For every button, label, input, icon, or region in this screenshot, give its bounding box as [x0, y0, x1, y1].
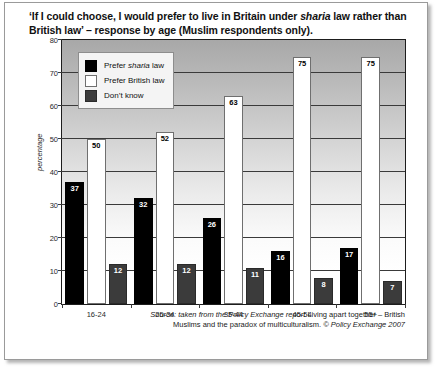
bar-group: 16758	[268, 40, 337, 304]
bar-dk: 8	[314, 278, 333, 304]
y-tick-label: 10	[50, 267, 58, 276]
x-tick-mark	[405, 304, 406, 308]
bar-value-label: 32	[135, 201, 152, 209]
bar-value-label: 26	[204, 221, 221, 229]
chart-title-line2: British law’ – response by age (Muslim r…	[29, 24, 313, 36]
y-tick-label: 0	[54, 300, 58, 309]
bar-british: 52	[156, 132, 175, 304]
source-note: Source: taken from the Policy Exchange r…	[105, 310, 405, 330]
y-tick-label: 70	[50, 69, 58, 78]
bar-value-label: 17	[341, 251, 358, 259]
bar-sharia: 16	[271, 251, 290, 304]
bar-sharia: 37	[65, 182, 84, 304]
legend-swatch-british	[85, 75, 97, 87]
bar-british: 50	[87, 139, 106, 304]
bar-value-label: 52	[157, 135, 174, 143]
bar-british: 75	[293, 57, 312, 305]
source-line1: Source: taken from the Policy Exchange r…	[150, 310, 405, 319]
bar-dk: 12	[109, 264, 128, 304]
plot-area: 01020304050607080 3750123252122663111675…	[61, 39, 406, 305]
x-tick-mark	[268, 304, 269, 308]
legend-item-british: Prefer British law	[85, 73, 164, 88]
legend-swatch-dk	[85, 90, 97, 102]
bar-british: 63	[224, 96, 243, 304]
x-tick-mark	[62, 304, 63, 308]
bar-value-label: 16	[272, 254, 289, 262]
x-tick-mark	[199, 304, 200, 308]
y-tick-label: 30	[50, 201, 58, 210]
bar-value-label: 75	[362, 60, 379, 68]
bar-dk: 7	[383, 281, 402, 304]
y-tick-label: 60	[50, 102, 58, 111]
bar-group: 266311	[199, 40, 268, 304]
bar-sharia: 32	[134, 198, 153, 304]
bar-value-label: 12	[178, 267, 195, 275]
bar-value-label: 12	[110, 267, 127, 275]
legend-label-dk: Don’t know	[104, 91, 144, 100]
y-tick-label: 40	[50, 168, 58, 177]
bar-sharia: 26	[203, 218, 222, 304]
legend-item-dk: Don’t know	[85, 88, 164, 103]
bar-value-label: 7	[384, 284, 401, 292]
legend-label-sharia: Prefer sharia law	[104, 61, 164, 70]
bar-value-label: 63	[225, 99, 242, 107]
figure-frame: ‘If I could choose, I would prefer to li…	[4, 2, 428, 360]
bar-sharia: 17	[340, 248, 359, 304]
legend-label-british: Prefer British law	[104, 76, 164, 85]
bar-group: 17757	[336, 40, 405, 304]
bar-dk: 12	[177, 264, 196, 304]
y-tick-label: 20	[50, 234, 58, 243]
bar-dk: 11	[246, 268, 265, 304]
chart-title: ‘If I could choose, I would prefer to li…	[29, 10, 409, 37]
x-tick-mark	[131, 304, 132, 308]
bar-value-label: 37	[66, 185, 83, 193]
source-line2: Muslims and the paradox of multicultural…	[173, 320, 405, 329]
y-tick-label: 50	[50, 135, 58, 144]
legend-swatch-sharia	[85, 60, 97, 72]
bar-british: 75	[361, 57, 380, 305]
bar-value-label: 75	[294, 60, 311, 68]
bar-value-label: 50	[88, 142, 105, 150]
chart-legend: Prefer sharia lawPrefer British lawDon’t…	[78, 52, 174, 109]
y-axis-label: percentage	[35, 133, 44, 171]
bar-value-label: 8	[315, 281, 332, 289]
chart-title-line1: ‘If I could choose, I would prefer to li…	[29, 10, 406, 22]
y-tick-label: 80	[50, 36, 58, 45]
legend-item-sharia: Prefer sharia law	[85, 58, 164, 73]
bar-value-label: 11	[247, 271, 264, 279]
x-tick-mark	[336, 304, 337, 308]
